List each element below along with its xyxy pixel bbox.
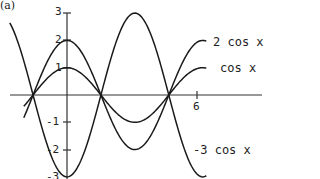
curve-label-neg3cos: -3 cos x (193, 144, 251, 156)
y-tick-label-m3: -3 (46, 171, 59, 179)
y-tick-label-m1: -1 (46, 116, 59, 128)
curve-label-2cos: 2 cos x (213, 36, 264, 48)
y-tick-label-m2: -2 (46, 144, 59, 156)
y-tick-label-1: 1 (55, 62, 62, 74)
y-tick-label-3: 3 (55, 6, 62, 18)
x-tick-label-6: 6 (193, 101, 200, 113)
curve-label-cos: cos x (220, 62, 256, 74)
y-tick-label-2: 2 (55, 34, 62, 46)
